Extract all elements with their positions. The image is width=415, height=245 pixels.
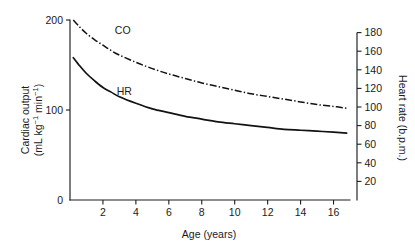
y-axis-title-left: Cardiac output (mL kg−1 min−1) [19,84,44,156]
x-axis-title: Age (years) [182,228,236,240]
right-axis: 20406080100120140160180 [357,26,382,200]
right-tick-label: 40 [365,157,377,169]
right-tick-label: 160 [365,45,383,57]
right-tick-label: 20 [365,175,377,187]
x-tick-label: 8 [199,206,205,218]
right-tick-label: 60 [365,138,377,150]
cardiac-output-heart-rate-chart: 0100200 246810121416 2040608010012014016… [0,0,415,245]
figure-container: 0100200 246810121416 2040608010012014016… [0,0,415,245]
x-tick-label: 4 [133,206,139,218]
right-tick-label: 180 [365,26,383,38]
x-axis-ticks: 246810121416 [100,200,340,218]
right-tick-label: 80 [365,119,377,131]
data-series-group [73,20,346,133]
bottom-axis: 246810121416 [70,200,350,218]
y-axis-title-left-line1: Cardiac output [19,86,31,154]
x-tick-label: 14 [295,206,307,218]
y-axis-units-suffix: ) [32,84,44,88]
left-axis: 0100200 [45,14,70,206]
y-axis-units-prefix: (mL kg [32,124,44,156]
right-axis-ticks: 20406080100120140160180 [357,26,382,187]
y-axis-title-left-line2: (mL kg−1 min−1) [31,84,44,156]
x-tick-label: 2 [100,206,106,218]
y-axis-units-sup1: −1 [31,116,40,125]
y-axis-units-mid: min [32,96,44,116]
x-tick-label: 16 [328,206,340,218]
left-axis-ticks: 0100200 [45,14,70,206]
left-tick-label: 200 [45,14,63,26]
x-tick-label: 10 [229,206,241,218]
y-axis-title-right: Heart rate (b.p.m.) [397,75,409,161]
right-tick-label: 120 [365,82,383,94]
series-curve-hr [73,58,346,133]
x-tick-label: 6 [166,206,172,218]
series-label-hr: HR [117,85,133,97]
right-tick-label: 100 [365,101,383,113]
y-axis-units-sup2: −1 [31,87,40,96]
right-tick-label: 140 [365,64,383,76]
series-label-co: CO [115,24,131,36]
left-tick-label: 100 [45,104,63,116]
x-tick-label: 12 [262,206,274,218]
left-tick-label: 0 [57,194,63,206]
